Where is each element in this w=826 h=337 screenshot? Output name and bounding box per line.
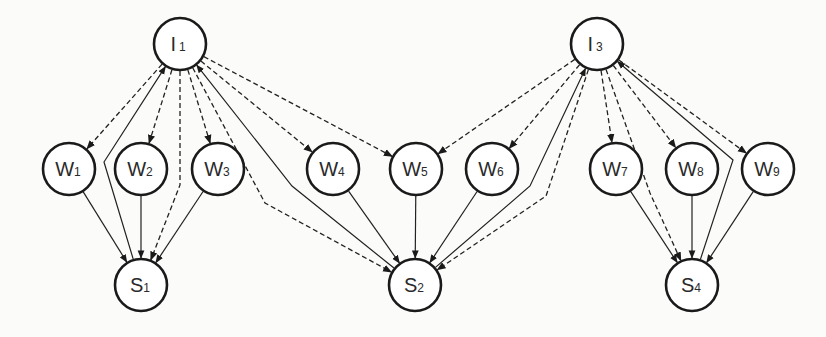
edge-w5-to-s2: [415, 196, 416, 258]
node-i1: I1: [154, 18, 206, 70]
node-w2: W2: [115, 143, 167, 195]
node-w6: W6: [466, 143, 518, 195]
edge-i1-to-w2: [149, 70, 172, 143]
edge-i1-to-w1: [87, 64, 162, 149]
edge-w9-to-s4: [707, 192, 753, 263]
edge-i3-to-w5: [438, 59, 575, 153]
node-s1: S1: [115, 259, 167, 311]
graph-diagram: I1I3W1W2W3W4W5W6W7W8W9S1S2S4: [0, 0, 826, 337]
edge-w7-to-s4: [631, 192, 677, 263]
edge-i1-to-w4: [201, 61, 312, 152]
edge-i3-to-w9: [619, 60, 746, 153]
node-i3: I3: [571, 18, 623, 70]
edge-i3-to-w6: [509, 65, 579, 149]
node-w3: W3: [192, 143, 244, 195]
node-w8: W8: [666, 143, 718, 195]
node-w9: W9: [742, 143, 794, 195]
node-w5: W5: [390, 143, 442, 195]
edge-i3-to-w8: [613, 65, 675, 147]
nodes-layer: I1I3W1W2W3W4W5W6W7W8W9S1S2S4: [43, 18, 794, 311]
node-s2: S2: [389, 259, 441, 311]
node-w1: W1: [43, 143, 95, 195]
edge-w3-to-s1: [156, 191, 203, 262]
node-w4: W4: [307, 143, 359, 195]
node-s4: S4: [666, 259, 718, 311]
edge-i1-to-w3: [188, 70, 210, 143]
node-w7: W7: [590, 143, 642, 195]
edge-w1-to-s1: [83, 192, 127, 262]
